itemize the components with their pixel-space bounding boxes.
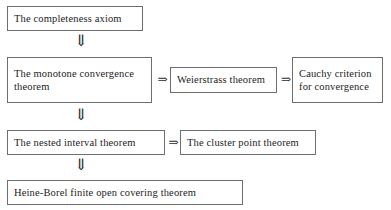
node-cauchy-criterion: Cauchy criterion for convergence (292, 57, 383, 103)
node-cluster-point-theorem: The cluster point theorem (180, 130, 316, 155)
node-heine-borel-theorem-line-1: Heine-Borel finite open covering theorem (14, 186, 236, 200)
node-completeness-axiom-line-1: The completeness axiom (14, 12, 136, 26)
node-completeness-axiom: The completeness axiom (7, 6, 143, 31)
arrow-down-nested-to-heine-borel-icon: ⇓ (73, 157, 89, 173)
node-monotone-convergence-theorem: The monotone convergence theorem (7, 57, 152, 103)
node-cauchy-criterion-line-2: for convergence (299, 80, 376, 94)
arrow-right-monotone-to-weierstrass-icon: ⇒ (155, 73, 170, 87)
arrow-right-weierstrass-to-cauchy-icon: ⇒ (279, 73, 293, 87)
node-weierstrass-theorem: Weierstrass theorem (170, 67, 277, 93)
node-cauchy-criterion-line-1: Cauchy criterion (299, 67, 376, 81)
node-nested-interval-theorem: The nested interval theorem (7, 130, 165, 155)
arrow-down-completeness-to-monotone-icon: ⇓ (73, 33, 89, 49)
flow-diagram: The completeness axiom ⇓ The monotone co… (0, 0, 391, 210)
node-cluster-point-theorem-line-1: The cluster point theorem (187, 136, 309, 150)
node-weierstrass-theorem-line-1: Weierstrass theorem (177, 73, 270, 87)
node-monotone-convergence-theorem-line-2: theorem (14, 80, 145, 94)
arrow-down-monotone-to-nested-icon: ⇓ (73, 107, 89, 123)
node-monotone-convergence-theorem-line-1: The monotone convergence (14, 67, 145, 81)
arrow-right-nested-to-cluster-icon: ⇒ (166, 136, 181, 150)
node-heine-borel-theorem: Heine-Borel finite open covering theorem (7, 180, 243, 205)
node-nested-interval-theorem-line-1: The nested interval theorem (14, 136, 158, 150)
